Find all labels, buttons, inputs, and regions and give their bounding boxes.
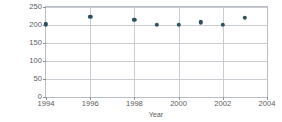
x-tick-mark [179, 97, 180, 100]
y-tick-label: 100 [8, 57, 42, 65]
x-axis-title: Year [44, 110, 268, 119]
y-tick-mark [43, 79, 46, 80]
y-tick-mark [43, 61, 46, 62]
x-tick-mark [46, 97, 47, 100]
data-point [243, 16, 247, 20]
data-point [198, 20, 202, 24]
x-tick-label: 2000 [170, 100, 187, 108]
y-tick-label: 150 [8, 39, 42, 47]
x-tick-label: 1998 [126, 100, 143, 108]
data-point [88, 15, 92, 19]
data-point [154, 23, 158, 27]
gridline-horizontal [46, 79, 267, 80]
scatter-chart: Farm output (billions of dollars) 050100… [0, 0, 282, 122]
y-tick-mark [43, 43, 46, 44]
y-tick-label: 200 [8, 21, 42, 29]
gridline-horizontal [46, 43, 267, 44]
data-point [132, 18, 136, 22]
gridline-horizontal [46, 7, 267, 8]
plot-area: 050100150200250 199419961998200020022004 [45, 6, 268, 98]
x-tick-label: 1994 [38, 100, 55, 108]
y-tick-mark [43, 7, 46, 8]
data-point [176, 23, 180, 27]
x-tick-mark [267, 97, 268, 100]
x-axis-title-label: Year [149, 110, 164, 119]
x-tick-label: 1996 [82, 100, 99, 108]
x-tick-mark [223, 97, 224, 100]
gridline-horizontal [46, 61, 267, 62]
gridline-vertical [223, 7, 224, 97]
data-point [221, 23, 225, 27]
gridline-vertical [90, 7, 91, 97]
x-tick-mark [134, 97, 135, 100]
y-tick-label: 250 [8, 3, 42, 11]
y-tick-label: 50 [8, 75, 42, 83]
gridline-vertical [179, 7, 180, 97]
x-tick-mark [90, 97, 91, 100]
x-tick-label: 2004 [259, 100, 276, 108]
x-tick-label: 2002 [214, 100, 231, 108]
